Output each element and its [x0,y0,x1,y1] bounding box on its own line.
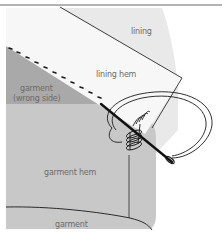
label-lining-hem: lining hem [96,70,136,79]
hemming-diagram: lining lining hem garment (wrong side) g… [0,0,222,238]
label-garment-wrong-side-2: (wrong side) [13,94,60,103]
label-garment-hem: garment hem [44,168,96,177]
label-lining: lining [131,27,152,36]
label-garment-wrong-side-1: garment [20,84,53,93]
label-garment: garment [55,220,88,229]
